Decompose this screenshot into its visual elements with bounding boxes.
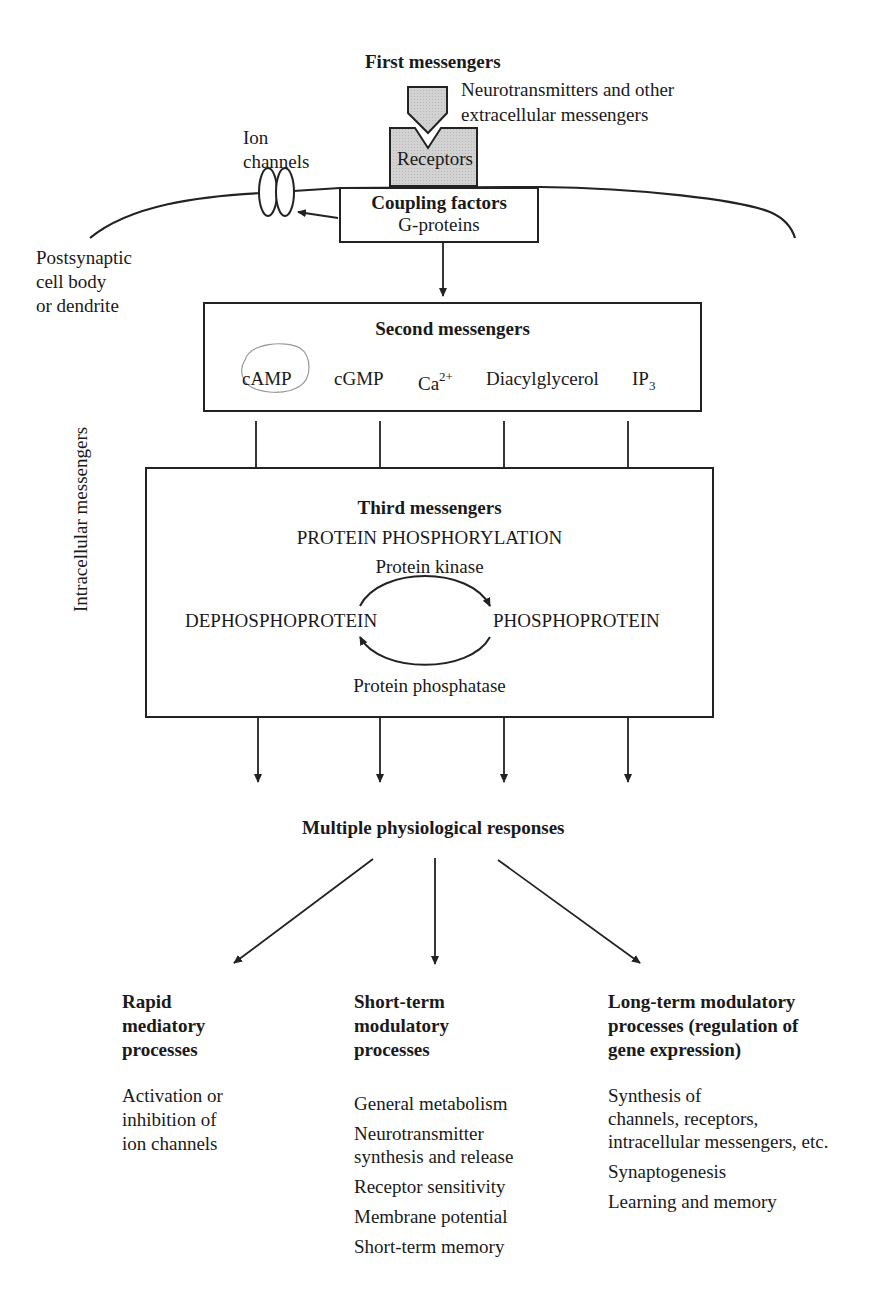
outcome-long-term: Long-term modulatory processes (regulati… bbox=[608, 990, 878, 1220]
dephosphoprotein-label: DEPHOSPHOPROTEIN bbox=[185, 610, 377, 632]
ligand-label-line1: Neurotransmitters and other bbox=[461, 78, 674, 101]
outcome-rapid-items: Activation or inhibition of ion channels bbox=[122, 1084, 322, 1156]
list-item: Short-term memory bbox=[354, 1235, 564, 1258]
list-item: Neurotransmitter synthesis and release bbox=[354, 1122, 564, 1168]
outcome-rapid-title: Rapid mediatory processes bbox=[122, 990, 322, 1062]
coupling-factors-box: Coupling factors G-proteins bbox=[339, 187, 539, 243]
responses-title: Multiple physiological responses bbox=[302, 816, 565, 839]
ion-channels-label-line2: channels bbox=[243, 150, 309, 173]
outcome-rapid: Rapid mediatory processes Activation or … bbox=[122, 990, 322, 1156]
coupling-subtitle: G-proteins bbox=[341, 214, 537, 236]
protein-kinase-label: Protein kinase bbox=[147, 556, 712, 578]
messenger-camp: cAMP bbox=[242, 367, 292, 390]
outcome-long-term-title: Long-term modulatory processes (regulati… bbox=[608, 990, 878, 1062]
list-item: Synaptogenesis bbox=[608, 1160, 878, 1183]
messenger-diacylglycerol: Diacylglycerol bbox=[486, 367, 599, 390]
messenger-cgmp: cGMP bbox=[334, 367, 384, 390]
list-item: Receptor sensitivity bbox=[354, 1175, 564, 1198]
coupling-title: Coupling factors bbox=[341, 192, 537, 214]
cell-label-line3: or dendrite bbox=[36, 294, 119, 317]
second-messengers-box: Second messengers cAMP cGMP Ca2+ Diacylg… bbox=[203, 302, 702, 412]
outcome-short-term: Short-term modulatory processes General … bbox=[354, 990, 564, 1265]
ion-channel-right bbox=[276, 168, 294, 216]
protein-phosphatase-label: Protein phosphatase bbox=[147, 675, 712, 697]
intracellular-messengers-label: Intracellular messengers bbox=[70, 427, 92, 612]
ligand-label-line2: extracellular messengers bbox=[461, 103, 648, 126]
third-messengers-box: Third messengers PROTEIN PHOSPHORYLATION… bbox=[145, 467, 714, 718]
receptor-label: Receptors bbox=[397, 147, 473, 170]
second-messengers-title: Second messengers bbox=[205, 317, 700, 340]
ion-channel-left bbox=[259, 168, 277, 216]
outcome-short-term-title: Short-term modulatory processes bbox=[354, 990, 564, 1062]
list-item: Membrane potential bbox=[354, 1205, 564, 1228]
outcome-short-term-items: General metabolism Neurotransmitter synt… bbox=[354, 1092, 564, 1258]
phosphoprotein-label: PHOSPHOPROTEIN bbox=[493, 610, 660, 632]
messenger-calcium: Ca2+ bbox=[418, 367, 453, 395]
cell-label-line2: cell body bbox=[36, 270, 106, 293]
third-messengers-title: Third messengers bbox=[147, 496, 712, 519]
list-item: Synthesis of channels, receptors, intrac… bbox=[608, 1084, 878, 1153]
protein-phosphorylation-label: PROTEIN PHOSPHORYLATION bbox=[147, 526, 712, 549]
outcome-long-term-items: Synthesis of channels, receptors, intrac… bbox=[608, 1084, 878, 1213]
ion-channels-label-line1: Ion bbox=[243, 126, 268, 149]
first-messengers-title: First messengers bbox=[365, 50, 501, 73]
list-item: Learning and memory bbox=[608, 1190, 878, 1213]
messenger-ip3: IP3 bbox=[632, 367, 655, 397]
list-item: General metabolism bbox=[354, 1092, 564, 1115]
ligand-shape bbox=[408, 87, 447, 133]
cell-label-line1: Postsynaptic bbox=[36, 246, 132, 269]
